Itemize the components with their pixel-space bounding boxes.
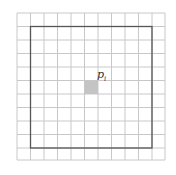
pixel-label-subscript: i bbox=[104, 75, 106, 83]
grid-diagram bbox=[0, 0, 176, 175]
pixel-label-main: p bbox=[97, 68, 104, 81]
highlighted-pixel-cell bbox=[85, 81, 99, 95]
pixel-label: pi bbox=[97, 68, 106, 83]
